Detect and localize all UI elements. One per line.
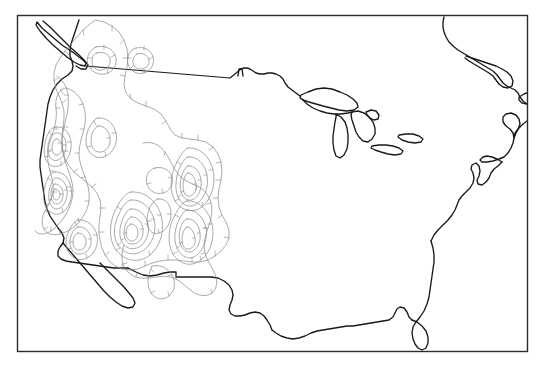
florida-peninsula	[412, 241, 434, 350]
maine-new-brunswick-coastline	[443, 17, 534, 138]
vancouver-island-outline	[36, 22, 86, 66]
contour-ring-i-outer	[127, 47, 153, 73]
st-lawrence-inlet	[465, 56, 513, 88]
pacific-coastline	[40, 20, 128, 268]
lake-michigan	[333, 114, 348, 158]
contour-ring-d-5	[73, 233, 86, 250]
contour-ring-a-4	[48, 133, 66, 161]
baja-california-outline	[63, 243, 135, 308]
lake-huron	[351, 111, 375, 142]
contour-hachure-marks-group	[44, 26, 229, 296]
us-mexico-border	[128, 268, 272, 330]
contour-ring-b-4	[49, 178, 67, 209]
map-svg-canvas	[0, 0, 542, 367]
contour-southern-lobe	[148, 265, 174, 298]
contour-ring-e-5	[124, 217, 143, 244]
contour-ring-c-3	[91, 126, 110, 152]
contour-map-figure	[0, 0, 542, 367]
atlantic-coast-southeast	[431, 162, 502, 241]
puget-sound-outline	[43, 21, 88, 69]
contour-ring-b-6	[53, 189, 60, 200]
georgian-bay	[366, 110, 379, 120]
lake-of-the-woods-boundary	[241, 68, 300, 96]
contour-ring-i-inner	[133, 53, 149, 69]
lake-superior	[300, 88, 358, 111]
contour-lines-group	[35, 20, 229, 299]
map-content	[35, 17, 537, 350]
gulf-coast-texas-to-panhandle	[272, 307, 412, 339]
contour-pocket-utah	[146, 167, 172, 193]
contour-pocket-nevada	[147, 199, 171, 234]
lake-ontario	[398, 134, 423, 143]
contour-ring-e-6	[126, 224, 138, 241]
contour-ring-a-5	[52, 139, 62, 155]
lake-erie	[371, 145, 403, 155]
coastline-outline-group	[36, 17, 537, 350]
